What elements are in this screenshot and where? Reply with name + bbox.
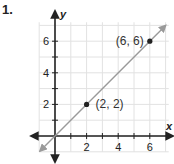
x-axis-label: x xyxy=(165,120,173,132)
x-tick-label: 6 xyxy=(147,141,153,153)
point-label: (2, 2) xyxy=(96,97,124,111)
data-point xyxy=(84,102,89,107)
x-tick-label: 4 xyxy=(115,141,121,153)
y-tick-label: 4 xyxy=(43,67,49,79)
point-label: (6, 6) xyxy=(116,34,144,48)
y-tick-label: 6 xyxy=(43,35,49,47)
x-tick-label: 2 xyxy=(84,141,90,153)
y-tick-label: 2 xyxy=(43,98,49,110)
y-axis-label: y xyxy=(59,8,67,20)
coordinate-plane: 246246 (2, 2)(6, 6) x y xyxy=(0,0,174,164)
data-point xyxy=(147,39,152,44)
